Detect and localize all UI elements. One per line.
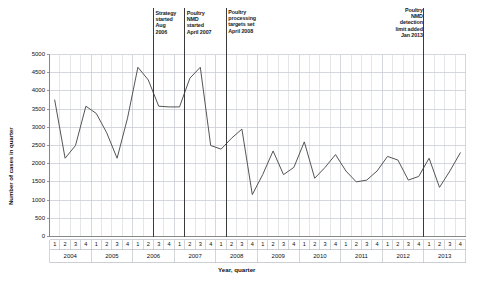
x-quarter-label: 4 bbox=[454, 241, 466, 247]
chart-plot-area bbox=[0, 0, 480, 282]
y-tick-label: 5000 bbox=[8, 51, 45, 57]
y-tick-label: 2000 bbox=[8, 160, 45, 166]
y-tick-label: 3000 bbox=[8, 124, 45, 130]
x-year-label: 2007 bbox=[181, 253, 209, 259]
y-tick-label: 500 bbox=[8, 215, 45, 221]
x-year-label: 2008 bbox=[223, 253, 251, 259]
y-tick-label: 0 bbox=[8, 233, 45, 239]
x-axis-label: Year, quarter bbox=[218, 266, 256, 273]
x-year-label: 2005 bbox=[98, 253, 126, 259]
y-tick-label: 3500 bbox=[8, 106, 45, 112]
y-tick-label: 1500 bbox=[8, 178, 45, 184]
event-annotation-poultry-nmd-started: Poultry NMD started April 2007 bbox=[187, 10, 212, 35]
y-tick-label: 2500 bbox=[8, 142, 45, 148]
y-tick-label: 4500 bbox=[8, 69, 45, 75]
x-year-label: 2011 bbox=[348, 253, 376, 259]
x-year-label: 2006 bbox=[140, 253, 168, 259]
x-year-label: 2004 bbox=[56, 253, 84, 259]
chart-figure: Number of cases in quarter Year, quarter… bbox=[0, 0, 480, 282]
y-tick-label: 1000 bbox=[8, 197, 45, 203]
event-annotation-poultry-processing-targets: Poultry processing targets set April 200… bbox=[228, 9, 256, 34]
x-year-label: 2010 bbox=[306, 253, 334, 259]
y-tick-label: 4000 bbox=[8, 87, 45, 93]
event-annotation-strategy-started: Strategy started Aug 2006 bbox=[156, 10, 177, 35]
y-axis-label: Number of cases in quarter bbox=[8, 127, 14, 205]
x-year-label: 2009 bbox=[264, 253, 292, 259]
x-year-label: 2012 bbox=[389, 253, 417, 259]
event-annotation-poultry-nmd-detection-limit: Poultry NMD detection limit added Jan 20… bbox=[396, 7, 423, 38]
x-year-label: 2013 bbox=[431, 253, 459, 259]
